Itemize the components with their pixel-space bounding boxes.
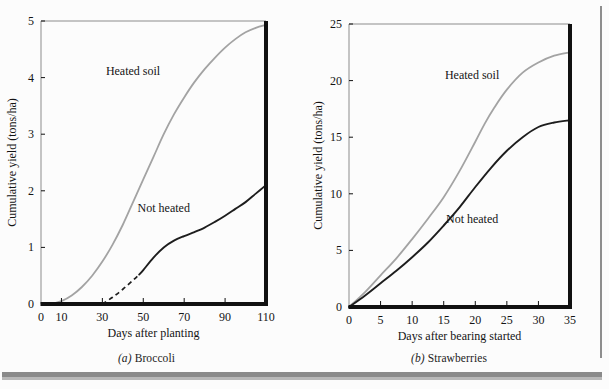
page-edge-right	[600, 6, 602, 358]
svg-text:25: 25	[330, 17, 342, 31]
svg-text:0: 0	[28, 297, 34, 311]
caption-broccoli: (a) Broccoli	[0, 352, 299, 364]
figure-strawberries: 051015202530350510152025Days after beari…	[305, 0, 605, 389]
svg-text:50: 50	[137, 310, 149, 324]
svg-text:5: 5	[28, 14, 34, 28]
svg-text:3: 3	[28, 127, 34, 141]
annotation-not-heated: Not heated	[446, 212, 498, 226]
x-axis-title: Days after bearing started	[398, 329, 522, 343]
svg-text:25: 25	[501, 313, 513, 327]
svg-text:15: 15	[330, 130, 342, 144]
svg-text:90: 90	[219, 310, 231, 324]
caption-broccoli-prefix: (a)	[118, 352, 132, 364]
strawberries-plot: 051015202530350510152025Days after beari…	[305, 0, 605, 350]
series-line-not-heated	[139, 185, 266, 274]
svg-text:70: 70	[178, 310, 190, 324]
broccoli-plot: 01030507090110012345Days after plantingC…	[0, 0, 305, 350]
page-edge-bottom-shadow	[2, 377, 602, 380]
svg-text:15: 15	[438, 313, 450, 327]
caption-strawberries: (b) Strawberries	[299, 352, 599, 364]
caption-strawberries-prefix: (b)	[411, 352, 425, 364]
scanned-page: 01030507090110012345Days after plantingC…	[0, 0, 609, 389]
svg-text:5: 5	[378, 313, 384, 327]
caption-broccoli-text: Broccoli	[135, 352, 175, 364]
caption-strawberries-text: Strawberries	[428, 352, 487, 364]
svg-text:30: 30	[96, 310, 108, 324]
svg-text:0: 0	[346, 313, 352, 327]
svg-text:20: 20	[469, 313, 481, 327]
annotation-heated-soil: Heated soil	[445, 68, 500, 82]
y-axis-title: Cumulative yield (tons/ha)	[5, 98, 19, 227]
svg-text:35: 35	[564, 313, 576, 327]
annotation-heated-soil: Heated soil	[106, 64, 161, 78]
y-axis-title: Cumulative yield (tons/ha)	[311, 101, 325, 230]
svg-text:4: 4	[28, 71, 34, 85]
svg-text:2: 2	[28, 184, 34, 198]
svg-text:30: 30	[532, 313, 544, 327]
figure-broccoli: 01030507090110012345Days after plantingC…	[0, 0, 305, 389]
svg-text:0: 0	[38, 310, 44, 324]
x-axis-title: Days after planting	[108, 326, 200, 340]
annotation-not-heated: Not heated	[138, 201, 190, 215]
series-line-heated-soil	[349, 52, 570, 307]
svg-text:0: 0	[336, 300, 342, 314]
svg-text:110: 110	[257, 310, 275, 324]
svg-text:10: 10	[406, 313, 418, 327]
svg-text:10: 10	[330, 187, 342, 201]
svg-text:5: 5	[336, 243, 342, 257]
svg-text:1: 1	[28, 240, 34, 254]
svg-text:10: 10	[55, 310, 67, 324]
svg-text:20: 20	[330, 74, 342, 88]
series-1-dashed-segment	[102, 275, 139, 304]
